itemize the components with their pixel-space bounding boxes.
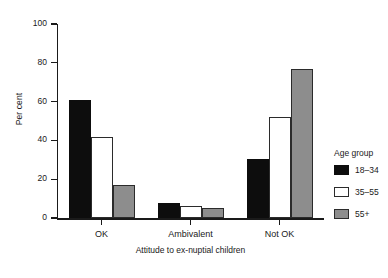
y-tick-label: 80 [19,58,47,67]
bar-ambivalent-series-0 [158,203,180,218]
y-tick-label: 20 [19,174,47,183]
bar-not-ok-series-0 [247,159,269,218]
x-tick-mark [190,219,191,225]
bar-ambivalent-series-1 [180,206,202,218]
legend-label: 55+ [355,209,369,219]
bar-ok-series-2 [113,185,135,218]
legend-entry-0: 18–34 [334,164,388,175]
x-tick-mark [101,219,102,225]
y-tick-label: 100 [19,19,47,28]
bar-not-ok-series-2 [291,69,313,218]
legend: Age group 18–3435–5555+ [334,148,388,230]
legend-swatch-icon [334,165,349,175]
bar-ok-series-1 [91,137,113,218]
y-tick-label: 0 [19,213,47,222]
y-tick-label: 60 [19,97,47,106]
x-tick-mark [279,219,280,225]
bar-ambivalent-series-2 [202,208,224,218]
x-tick-label: Ambivalent [146,229,236,239]
legend-swatch-icon [334,187,349,197]
legend-entries: 18–3435–5555+ [334,164,388,219]
bar-chart-figure: Per cent 020406080100 OKAmbivalentNot OK… [0,0,388,278]
plot-area [57,24,324,218]
x-tick-label: Not OK [235,229,325,239]
legend-entry-1: 35–55 [334,186,388,197]
legend-entry-2: 55+ [334,208,388,219]
bar-not-ok-series-1 [269,117,291,218]
legend-swatch-icon [334,209,349,219]
legend-title: Age group [334,148,388,158]
legend-label: 35–55 [355,187,379,197]
x-axis-title: Attitude to ex-nuptial children [57,245,324,255]
bar-ok-series-0 [69,100,91,218]
legend-label: 18–34 [355,165,379,175]
y-tick-label: 40 [19,135,47,144]
x-tick-label: OK [57,229,147,239]
